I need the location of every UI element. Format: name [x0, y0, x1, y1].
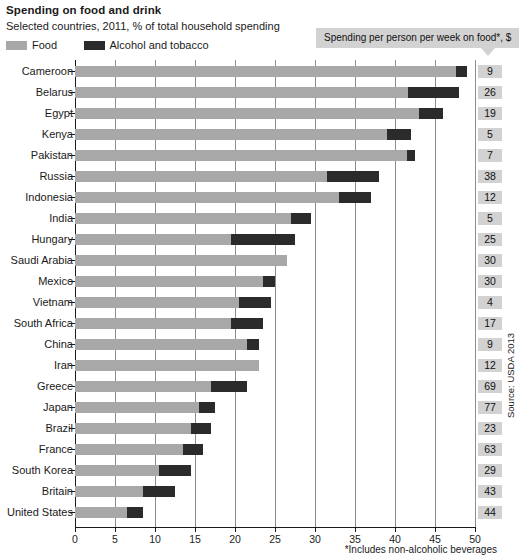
bar-segment-food[interactable]	[75, 465, 159, 476]
bar-segment-alcohol[interactable]	[456, 66, 467, 77]
bar-segment-food[interactable]	[75, 402, 199, 413]
weekly-spend-value: 44	[478, 506, 502, 519]
bar-segment-alcohol[interactable]	[291, 213, 311, 224]
x-tick-label-5: 5	[100, 533, 130, 545]
bar-row-label: China	[0, 339, 73, 350]
bar-segment-alcohol[interactable]	[183, 444, 203, 455]
legend-label-alcohol: Alcohol and tobacco	[110, 39, 209, 51]
bar-row[interactable]: Brazil23	[0, 423, 525, 444]
bar-segment-food[interactable]	[75, 213, 291, 224]
bar-row[interactable]: South Africa17	[0, 318, 525, 339]
weekly-spend-value: 30	[478, 254, 502, 267]
bar-row[interactable]: Kenya5	[0, 129, 525, 150]
bar-segment-food[interactable]	[75, 129, 387, 140]
bar-row[interactable]: Indonesia12	[0, 192, 525, 213]
bar-segment-alcohol[interactable]	[247, 339, 259, 350]
bar-segment-food[interactable]	[75, 276, 263, 287]
bar-segment-food[interactable]	[75, 339, 247, 350]
bar-row-label: Iran	[0, 360, 73, 371]
bar-segment-alcohol[interactable]	[263, 276, 275, 287]
legend-swatch-food-icon	[6, 41, 27, 50]
footnote: *Includes non-alcoholic beverages	[345, 544, 497, 555]
weekly-spend-value: 43	[478, 485, 502, 498]
weekly-spend-value: 63	[478, 443, 502, 456]
weekly-spend-value: 7	[478, 149, 502, 162]
bar-row-label: United States	[0, 507, 73, 518]
bar-segment-food[interactable]	[75, 507, 127, 518]
bar-row-label: Cameroon	[0, 66, 73, 77]
bar-row[interactable]: France63	[0, 444, 525, 465]
bar-row-label: Pakistan	[0, 150, 73, 161]
bar-segment-alcohol[interactable]	[339, 192, 371, 203]
bar-segment-food[interactable]	[75, 297, 239, 308]
weekly-spend-value: 29	[478, 464, 502, 477]
bar-segment-food[interactable]	[75, 171, 327, 182]
bar-segment-food[interactable]	[75, 108, 419, 119]
bar-segment-alcohol[interactable]	[407, 150, 415, 161]
bar-segment-alcohol[interactable]	[127, 507, 143, 518]
x-tick-label-30: 30	[300, 533, 330, 545]
bar-segment-alcohol[interactable]	[408, 87, 459, 98]
weekly-spend-value: 17	[478, 317, 502, 330]
bar-row-label: Russia	[0, 171, 73, 182]
bar-segment-alcohol[interactable]	[419, 108, 443, 119]
bar-segment-alcohol[interactable]	[387, 129, 411, 140]
bar-row[interactable]: United States44	[0, 507, 525, 528]
bar-row-label: Hungary	[0, 234, 73, 245]
bar-row[interactable]: Vietnam4	[0, 297, 525, 318]
bar-segment-food[interactable]	[75, 423, 191, 434]
weekly-spend-value: 19	[478, 107, 502, 120]
bar-row[interactable]: Iran12	[0, 360, 525, 381]
bar-row[interactable]: Belarus26	[0, 87, 525, 108]
bar-segment-alcohol[interactable]	[191, 423, 211, 434]
bar-segment-food[interactable]	[75, 360, 259, 371]
bar-row-label: Mexico	[0, 276, 73, 287]
weekly-spend-value: 5	[478, 212, 502, 225]
legend-item-food: Food	[6, 35, 57, 53]
bar-segment-alcohol[interactable]	[143, 486, 175, 497]
bar-segment-alcohol[interactable]	[211, 381, 247, 392]
bar-row[interactable]: South Korea29	[0, 465, 525, 486]
bar-segment-food[interactable]	[75, 234, 231, 245]
bar-segment-alcohol[interactable]	[327, 171, 379, 182]
bar-row-label: Indonesia	[0, 192, 73, 203]
bar-row[interactable]: India5	[0, 213, 525, 234]
bar-segment-alcohol[interactable]	[231, 234, 295, 245]
bar-row[interactable]: Cameroon9	[0, 66, 525, 87]
bar-segment-food[interactable]	[75, 66, 456, 77]
bar-segment-food[interactable]	[75, 192, 339, 203]
bar-row[interactable]: Japan77	[0, 402, 525, 423]
bar-segment-food[interactable]	[75, 255, 287, 266]
bar-segment-food[interactable]	[75, 150, 407, 161]
bar-row[interactable]: Egypt19	[0, 108, 525, 129]
bar-row[interactable]: Britain43	[0, 486, 525, 507]
bar-row[interactable]: Hungary25	[0, 234, 525, 255]
bar-row[interactable]: Saudi Arabia30	[0, 255, 525, 276]
bar-segment-food[interactable]	[75, 381, 211, 392]
source-note: Source: USDA 2013	[505, 333, 516, 418]
bar-segment-alcohol[interactable]	[239, 297, 271, 308]
bar-row[interactable]: China9	[0, 339, 525, 360]
bar-row[interactable]: Pakistan7	[0, 150, 525, 171]
bar-row-label: Greece	[0, 381, 73, 392]
bar-row-label: Belarus	[0, 87, 73, 98]
callout-tail-icon	[481, 48, 495, 56]
bar-segment-alcohol[interactable]	[159, 465, 191, 476]
x-tick-label-20: 20	[220, 533, 250, 545]
bar-row[interactable]: Russia38	[0, 171, 525, 192]
bar-row-label: Saudi Arabia	[0, 255, 73, 266]
bar-segment-food[interactable]	[75, 486, 143, 497]
bar-segment-alcohol[interactable]	[231, 318, 263, 329]
x-tick-label-0: 0	[60, 533, 90, 545]
weekly-spend-value: 9	[478, 338, 502, 351]
bar-segment-food[interactable]	[75, 444, 183, 455]
bar-row-label: India	[0, 213, 73, 224]
weekly-spend-value: 30	[478, 275, 502, 288]
bar-segment-food[interactable]	[75, 318, 231, 329]
bar-row[interactable]: Greece69	[0, 381, 525, 402]
bar-segment-alcohol[interactable]	[199, 402, 215, 413]
x-tick-label-15: 15	[180, 533, 210, 545]
bar-segment-food[interactable]	[75, 87, 408, 98]
weekly-spend-value: 26	[478, 86, 502, 99]
bar-row[interactable]: Mexico30	[0, 276, 525, 297]
